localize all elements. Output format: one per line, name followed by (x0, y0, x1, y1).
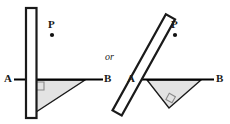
left-triangle-shaded-region (33, 80, 85, 114)
left-label-A: A (4, 73, 12, 84)
right-label-A: A (127, 73, 135, 84)
physics-diagram-figure: A B P or A B P (0, 0, 230, 124)
left-label-P: P (48, 19, 55, 30)
right-label-P: P (171, 19, 178, 30)
connector-or-label: or (105, 52, 114, 62)
left-vertical-bar (26, 8, 37, 118)
right-triangle-shaded-region (147, 80, 201, 108)
right-diagram-group (113, 14, 214, 115)
left-point-P-dot (50, 33, 54, 37)
diagram-svg-canvas (0, 0, 230, 124)
right-point-P-dot (173, 33, 177, 37)
left-label-B: B (104, 73, 111, 84)
right-label-B: B (216, 73, 223, 84)
left-diagram-group (14, 8, 103, 118)
